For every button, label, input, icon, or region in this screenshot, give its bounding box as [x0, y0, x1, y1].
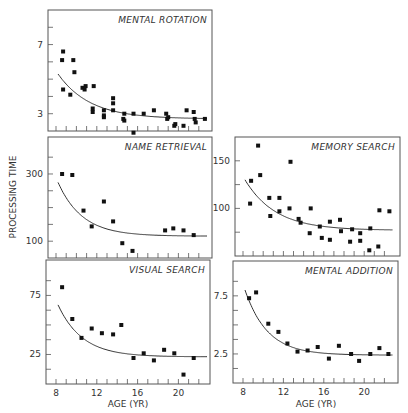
- data-point: [338, 218, 342, 222]
- data-point: [327, 357, 331, 361]
- data-point: [256, 144, 260, 148]
- panel-title: MEMORY SEARCH: [311, 142, 395, 152]
- data-point: [339, 229, 343, 233]
- data-point: [267, 196, 271, 200]
- data-point: [308, 231, 312, 235]
- data-point: [318, 225, 322, 229]
- data-point: [386, 352, 390, 356]
- data-point: [249, 179, 253, 183]
- plot-frame: [48, 137, 212, 258]
- data-point: [296, 350, 300, 354]
- data-point: [254, 290, 258, 294]
- panel-title: VISUAL SEARCH: [129, 265, 205, 275]
- data-point: [182, 373, 186, 377]
- y-tick-label: 150: [213, 156, 230, 166]
- data-point: [182, 124, 186, 128]
- data-point: [164, 112, 168, 116]
- data-point: [285, 342, 289, 346]
- data-point: [132, 356, 136, 360]
- data-point: [91, 107, 95, 111]
- data-point: [277, 209, 281, 213]
- data-point: [309, 206, 313, 210]
- panel-title: NAME RETRIEVAL: [125, 142, 207, 152]
- panel-mental-rotation: MENTAL ROTATION37: [37, 10, 212, 135]
- data-point: [120, 241, 124, 245]
- data-point: [377, 208, 381, 212]
- data-point: [368, 226, 372, 230]
- panel-memory-search: MEMORY SEARCH100150: [213, 137, 400, 256]
- y-tick-label: 25: [30, 349, 41, 359]
- x-tick-label: 16: [132, 388, 144, 398]
- data-point: [173, 122, 177, 126]
- data-point: [377, 346, 381, 350]
- x-tick-label: 12: [91, 388, 102, 398]
- data-point: [100, 331, 104, 335]
- data-point: [131, 249, 135, 253]
- data-point: [152, 358, 156, 362]
- data-point: [132, 112, 136, 116]
- data-point: [266, 322, 270, 326]
- data-point: [193, 117, 197, 121]
- panel-title: MENTAL ROTATION: [118, 15, 207, 25]
- y-tick-label: 100: [213, 203, 230, 213]
- data-point: [82, 209, 86, 213]
- data-point: [111, 108, 115, 112]
- data-point: [111, 101, 115, 105]
- data-point: [142, 351, 146, 355]
- x-tick-label: 8: [240, 387, 246, 397]
- panel-visual-search: VISUAL SEARCH25758121620: [30, 260, 210, 398]
- panel-mental-addition: MENTAL ADDITION2.57.58121620: [214, 261, 398, 397]
- data-point: [288, 206, 292, 210]
- data-point: [357, 359, 361, 363]
- data-point: [60, 58, 64, 62]
- figure: MENTAL ROTATION37NAME RETRIEVAL100300VIS…: [0, 0, 408, 413]
- y-tick-label: 300: [26, 169, 43, 179]
- data-point: [297, 217, 301, 221]
- x-tick-label: 12: [278, 387, 289, 397]
- y-tick-label: 3: [37, 109, 43, 119]
- data-point: [368, 352, 372, 356]
- fit-curve: [58, 305, 207, 357]
- data-point: [111, 219, 115, 223]
- panel-title: MENTAL ADDITION: [305, 266, 393, 276]
- data-point: [90, 224, 94, 228]
- x-tick-label: 20: [358, 387, 370, 397]
- data-point: [185, 108, 189, 112]
- data-point: [328, 220, 332, 224]
- y-axis-label: PROCESSING TIME: [8, 155, 18, 238]
- data-point: [102, 115, 106, 119]
- data-point: [182, 228, 186, 232]
- data-point: [248, 202, 252, 206]
- data-point: [358, 231, 362, 235]
- y-tick-label: 2.5: [214, 349, 228, 359]
- data-point: [60, 285, 64, 289]
- data-point: [171, 226, 175, 230]
- data-point: [350, 227, 354, 231]
- data-point: [91, 110, 95, 114]
- data-point: [192, 110, 196, 114]
- data-point: [122, 119, 126, 123]
- data-point: [61, 88, 65, 92]
- data-point: [306, 349, 310, 353]
- y-tick-label: 100: [26, 236, 43, 246]
- data-point: [162, 348, 166, 352]
- fit-curve: [58, 182, 207, 236]
- data-point: [142, 112, 146, 116]
- data-point: [348, 240, 352, 244]
- data-point: [289, 160, 293, 164]
- y-tick-label: 7: [37, 40, 43, 50]
- x-tick-label: 20: [173, 388, 185, 398]
- data-point: [70, 317, 74, 321]
- data-point: [92, 84, 96, 88]
- data-point: [376, 245, 380, 249]
- data-point: [102, 200, 106, 204]
- data-point: [349, 352, 353, 356]
- data-point: [90, 327, 94, 331]
- data-point: [60, 172, 64, 176]
- data-point: [122, 112, 126, 116]
- data-point: [163, 228, 167, 232]
- data-point: [258, 173, 262, 177]
- data-point: [194, 120, 198, 124]
- data-point: [61, 50, 65, 54]
- data-point: [102, 108, 106, 112]
